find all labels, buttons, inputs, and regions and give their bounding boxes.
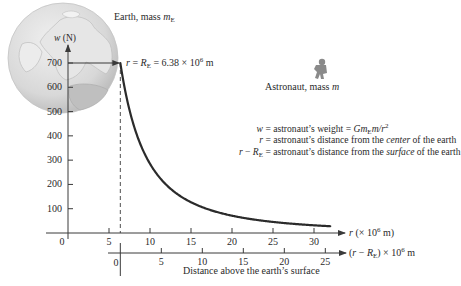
y-tick-label: 100 bbox=[22, 204, 62, 214]
origin-upper-label: 0 bbox=[52, 237, 72, 247]
x-tick-label: 5 bbox=[99, 237, 119, 247]
x-secondary-tick-label: 5 bbox=[151, 257, 171, 267]
y-tick-label: 700 bbox=[22, 58, 62, 68]
y-tick-label: 200 bbox=[22, 179, 62, 189]
lower-axis-label: (r − RE) × 106 m bbox=[349, 247, 415, 260]
y-tick-label: 600 bbox=[22, 82, 62, 92]
legend-row-surface-distance: r − RE = astronaut’s distance from the s… bbox=[215, 147, 461, 159]
x-tick-label: 30 bbox=[304, 237, 324, 247]
y-tick-label: 500 bbox=[22, 107, 62, 117]
y-tick-label: 400 bbox=[22, 131, 62, 141]
legend-row-center-distance: r = astronaut’s distance from the center… bbox=[215, 135, 456, 145]
y-tick-label: 300 bbox=[22, 155, 62, 165]
x-tick-label: 10 bbox=[140, 237, 160, 247]
x-tick-label: 15 bbox=[181, 237, 201, 247]
astronaut-label: Astronaut, mass m bbox=[265, 82, 339, 92]
surface-radius-annotation: r = RE = 6.38 × 106 m bbox=[126, 57, 214, 70]
y-axis-label: w (N) bbox=[54, 34, 76, 44]
lower-axis-caption: Distance above the earth’s surface bbox=[183, 266, 320, 276]
upper-axis-label: r (× 106 m) bbox=[349, 227, 394, 238]
astronaut-icon bbox=[314, 59, 327, 79]
earth-label: Earth, mass mE bbox=[114, 12, 175, 24]
x-tick-label: 20 bbox=[222, 237, 242, 247]
origin-lower-label: 0 bbox=[106, 258, 126, 268]
x-tick-label: 25 bbox=[263, 237, 283, 247]
